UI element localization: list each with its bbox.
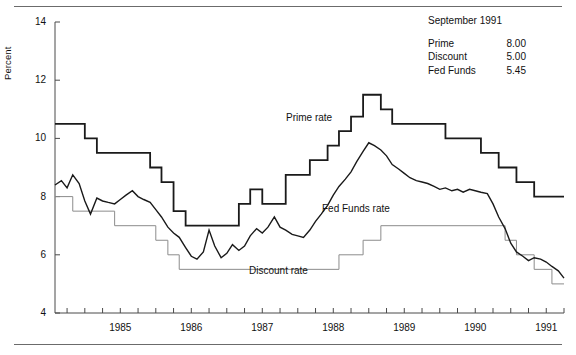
annotation-rows: Prime8.00Discount5.00Fed Funds5.45	[428, 37, 526, 78]
y-tick-label: 12	[24, 75, 46, 85]
annotation-row-value: 5.45	[492, 64, 526, 78]
annotation-row: Discount5.00	[428, 50, 526, 64]
y-tick-label: 10	[24, 133, 46, 143]
annotation-row-value: 5.00	[492, 50, 526, 64]
y-tick-label: 8	[24, 192, 46, 202]
annotation-row-name: Prime	[428, 37, 492, 51]
annotation-row: Prime8.00	[428, 37, 526, 51]
annotation-row: Fed Funds5.45	[428, 64, 526, 78]
y-tick-label: 14	[24, 17, 46, 27]
x-tick-label: 1990	[452, 323, 498, 333]
current-values-annotation: September 1991 Prime8.00Discount5.00Fed …	[428, 14, 526, 77]
x-tick-label: 1989	[381, 323, 427, 333]
x-tick-label: 1986	[168, 323, 214, 333]
annotation-date: September 1991	[428, 14, 526, 28]
y-tick-label: 6	[24, 250, 46, 260]
x-tick-label: 1991	[523, 323, 569, 333]
series-label-discount-rate: Discount rate	[249, 265, 308, 276]
series-label-prime-rate: Prime rate	[286, 112, 332, 123]
rates-chart-figure: Percent 468101214 1985198619871988198919…	[0, 0, 576, 355]
annotation-row-name: Fed Funds	[428, 64, 492, 78]
annotation-row-value: 8.00	[492, 37, 526, 51]
annotation-row-name: Discount	[428, 50, 492, 64]
series-label-fed-funds-rate: Fed Funds rate	[322, 203, 390, 214]
x-tick-label: 1985	[97, 323, 143, 333]
x-tick-label: 1987	[239, 323, 285, 333]
x-tick-label: 1988	[310, 323, 356, 333]
y-tick-label: 4	[24, 308, 46, 318]
